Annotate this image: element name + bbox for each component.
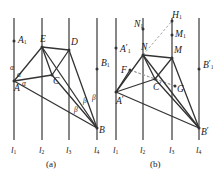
- point-label-Ap: A′: [116, 95, 124, 106]
- angle-marker-alpha-1: α: [10, 64, 14, 72]
- point-label-E: E: [40, 35, 46, 45]
- subscript: 2: [143, 149, 146, 155]
- angle-marker-alpha-2: α: [17, 71, 21, 79]
- vertex-E: [41, 46, 44, 49]
- subscript: 1: [128, 48, 131, 54]
- point-label-D: D: [71, 38, 78, 48]
- subscript: 4: [199, 149, 202, 155]
- panel-b: [115, 18, 201, 140]
- subscript: 1: [211, 64, 213, 70]
- point-label-G: G: [177, 85, 184, 95]
- subscript: 1: [14, 149, 17, 155]
- point-label-N1: N1: [134, 20, 143, 30]
- vertex-Ap: [115, 91, 118, 94]
- vertex-M: [171, 57, 174, 60]
- point-label-B1p: B′1: [203, 59, 213, 71]
- subscript: 1: [107, 62, 110, 68]
- rule-label-l3: l3: [66, 146, 71, 156]
- subscript: 4: [97, 149, 100, 155]
- vertex-A1p: [115, 47, 118, 50]
- vertex-N: [142, 54, 145, 57]
- subscript: 1: [24, 39, 27, 45]
- subscript: 1: [179, 14, 182, 20]
- prime-mark: ′: [207, 125, 209, 135]
- subscript: 1: [140, 23, 143, 29]
- segment-N-M: [143, 55, 172, 58]
- rule-label-l2p: l2: [140, 146, 145, 156]
- segment-D-B: [69, 50, 97, 128]
- segment-D-C: [52, 50, 69, 75]
- vertex-A1: [13, 40, 16, 43]
- dashed-segment-N-H1: [143, 21, 172, 55]
- subscript: 1: [116, 149, 119, 155]
- prime-mark: ′: [159, 80, 161, 90]
- angle-marker-beta-1: β: [74, 106, 78, 114]
- point-label-N: N: [141, 43, 147, 53]
- point-label-Bp: B′: [201, 126, 209, 137]
- rule-label-l1p: l1: [113, 146, 118, 156]
- vertex-B1: [96, 68, 99, 71]
- point-label-Cp: C′: [153, 81, 161, 92]
- prime-mark: ′: [122, 94, 124, 104]
- vertex-F: [129, 69, 132, 72]
- subscript: 2: [42, 149, 45, 155]
- point-label-M: M: [174, 46, 182, 56]
- subscript: 3: [172, 149, 175, 155]
- segment-Ap-Cp: [116, 79, 155, 92]
- caption-panel-b: (b): [150, 160, 161, 169]
- point-label-B1: B1: [101, 59, 110, 69]
- geometry-figure-pair: l1l2l3l4AA1EDCBB1αααβββl1l2l3l4A′A′1NN1M…: [0, 0, 213, 180]
- point-label-H1: H1: [172, 11, 182, 21]
- rule-label-l4: l4: [94, 146, 99, 156]
- segment-M-Cp: [155, 58, 172, 79]
- subscript: 1: [183, 33, 186, 39]
- angle-marker-beta-2: β: [83, 97, 87, 105]
- rule-label-l3p: l3: [169, 146, 174, 156]
- point-label-M1: M1: [175, 30, 186, 40]
- segment-E-C: [42, 47, 52, 75]
- caption-panel-a: (a): [46, 160, 56, 169]
- rule-label-l2: l2: [39, 146, 44, 156]
- segment-N-Bp: [143, 55, 199, 128]
- point-label-A1: A1: [18, 36, 27, 46]
- vertex-D: [68, 49, 71, 52]
- point-label-A: A: [14, 84, 20, 94]
- subscript: 3: [69, 149, 72, 155]
- rule-label-l1: l1: [11, 146, 16, 156]
- point-label-A1p: A′1: [120, 43, 131, 55]
- rule-label-l4p: l4: [196, 146, 201, 156]
- angle-marker-alpha-3: α: [22, 80, 26, 88]
- angle-marker-beta-3: β: [92, 94, 96, 102]
- vertex-M1: [171, 34, 174, 37]
- vertex-B1p: [198, 68, 201, 71]
- point-label-C: C: [53, 77, 59, 87]
- point-label-F: F: [121, 66, 127, 76]
- segment-E-D: [42, 47, 69, 50]
- point-label-B: B: [99, 126, 105, 136]
